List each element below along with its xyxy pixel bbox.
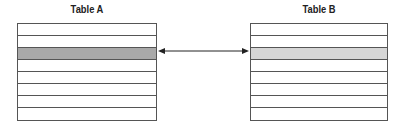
table-row <box>251 84 387 96</box>
table-row <box>251 36 387 48</box>
table-row <box>251 72 387 84</box>
table-row <box>18 84 156 96</box>
table-b <box>250 23 388 121</box>
table-row <box>251 60 387 72</box>
double-arrow-icon <box>157 45 250 57</box>
table-row <box>18 108 156 120</box>
table-row <box>18 96 156 108</box>
table-b-title: Table B <box>289 3 349 15</box>
table-row <box>251 96 387 108</box>
table-row <box>251 24 387 36</box>
table-row <box>18 60 156 72</box>
table-row <box>251 108 387 120</box>
table-row <box>18 24 156 36</box>
table-a-title: Table A <box>57 3 117 15</box>
highlighted-row <box>251 48 387 60</box>
table-a <box>17 23 157 121</box>
highlighted-row <box>18 48 156 60</box>
table-row <box>18 36 156 48</box>
table-row <box>18 72 156 84</box>
